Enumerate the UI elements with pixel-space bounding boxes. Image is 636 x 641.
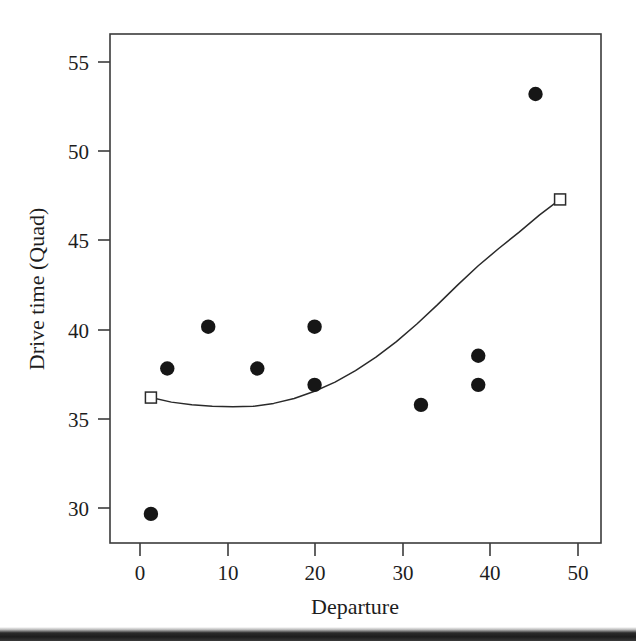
scatter-plot-with-quadratic-fit: 55 50 45 40 35 30 0 10 20 30 40 50 Depar… xyxy=(0,0,636,641)
scatter-data-point xyxy=(144,507,158,521)
fit-endpoint-markers xyxy=(145,194,565,403)
scatter-data-point xyxy=(414,398,428,412)
scatter-data-point xyxy=(528,87,542,101)
y-tick-label-35: 35 xyxy=(68,408,89,432)
figure-container: 55 50 45 40 35 30 0 10 20 30 40 50 Depar… xyxy=(0,0,636,641)
scatter-data-point xyxy=(250,361,264,375)
y-tick-label-55: 55 xyxy=(68,51,89,75)
x-tick-label-50: 50 xyxy=(568,561,589,585)
x-axis-tick-labels: 0 10 20 30 40 50 xyxy=(135,561,589,585)
plot-frame xyxy=(110,34,601,543)
scatter-data-point xyxy=(471,378,485,392)
quadratic-fit-curve xyxy=(151,199,560,406)
y-tick-label-45: 45 xyxy=(68,229,89,253)
x-tick-label-30: 30 xyxy=(393,561,414,585)
fit-endpoint-marker xyxy=(145,392,156,403)
scan-artifact-band xyxy=(0,627,636,641)
scatter-data-point xyxy=(471,349,485,363)
x-tick-label-0: 0 xyxy=(135,561,146,585)
y-tick-label-30: 30 xyxy=(68,497,89,521)
y-axis-title: Drive time (Quad) xyxy=(24,208,49,371)
y-axis-tick-labels: 55 50 45 40 35 30 xyxy=(68,51,89,521)
scatter-data-point xyxy=(307,319,321,333)
scatter-data-point xyxy=(201,319,215,333)
x-tick-label-10: 10 xyxy=(218,561,239,585)
x-tick-label-20: 20 xyxy=(305,561,326,585)
x-axis-title: Departure xyxy=(311,594,399,619)
fit-endpoint-marker xyxy=(555,194,566,205)
scatter-data-point xyxy=(307,378,321,392)
y-tick-label-40: 40 xyxy=(68,319,89,343)
y-axis-ticks xyxy=(98,62,110,508)
x-axis-ticks xyxy=(140,543,578,556)
x-tick-label-40: 40 xyxy=(480,561,501,585)
scatter-data-point xyxy=(160,361,174,375)
y-tick-label-50: 50 xyxy=(68,140,89,164)
scatter-points-group xyxy=(144,87,543,521)
